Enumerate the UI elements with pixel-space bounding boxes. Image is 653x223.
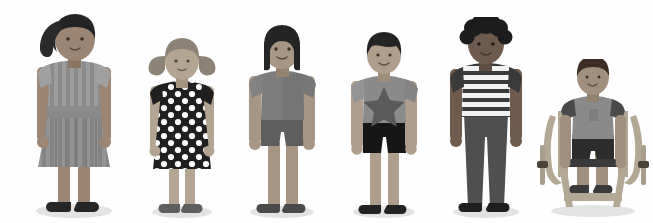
child-6-label: Boy seated in a wheelchair bbox=[534, 219, 535, 220]
shoe-right bbox=[74, 202, 99, 212]
leg-right bbox=[185, 164, 195, 209]
child-5-artwork bbox=[432, 17, 540, 219]
eye-left bbox=[274, 47, 277, 50]
frame-rail-right bbox=[613, 171, 626, 207]
figure-child-1: Girl with ponytail in striped dress bbox=[18, 9, 128, 219]
leg-left bbox=[268, 142, 280, 210]
caster-hub-left bbox=[537, 161, 548, 168]
shoe-left bbox=[257, 204, 281, 213]
hand-right bbox=[510, 135, 522, 147]
leg-right bbox=[388, 149, 399, 211]
eye-right bbox=[598, 76, 601, 79]
hand-right bbox=[616, 158, 627, 169]
tshirt-pocket bbox=[589, 109, 598, 121]
eye-right bbox=[388, 53, 391, 56]
shoe-left bbox=[159, 204, 181, 213]
eye-right bbox=[80, 37, 84, 41]
ground-shadow bbox=[551, 205, 635, 217]
caster-hub-right bbox=[638, 161, 649, 168]
shoe-left bbox=[46, 202, 71, 212]
child-5-label: Boy with curly hair in striped shirt and… bbox=[432, 219, 433, 220]
child-4-label: Boy with star t-shirt and dark shorts bbox=[334, 219, 335, 220]
illustration-title: Six diverse children standing in a row bbox=[0, 0, 1, 1]
figure-child-4: Boy with star t-shirt and dark shorts bbox=[334, 31, 434, 219]
shoe-left bbox=[359, 205, 382, 214]
child-3-label: Girl with straight dark hair in t-shirt … bbox=[232, 219, 233, 220]
hand-left bbox=[560, 158, 571, 169]
figure-child-5: Boy with curly hair in striped shirt and… bbox=[432, 17, 540, 219]
footplate bbox=[570, 193, 616, 198]
hand-right bbox=[99, 136, 111, 148]
shoe-right bbox=[282, 204, 306, 213]
eye-left bbox=[66, 37, 70, 41]
hand-left bbox=[351, 143, 363, 155]
eye-left bbox=[477, 42, 480, 45]
eye-left bbox=[174, 59, 177, 62]
hand-right bbox=[204, 146, 215, 157]
shoe-right bbox=[181, 204, 203, 213]
eye-left bbox=[586, 76, 589, 79]
hand-left bbox=[249, 138, 261, 150]
hand-left bbox=[450, 135, 462, 147]
pigtail-right bbox=[199, 56, 215, 75]
belt bbox=[47, 105, 101, 118]
figure-child-6: Boy seated in a wheelchair bbox=[534, 59, 652, 219]
striped-shirt bbox=[462, 63, 510, 117]
eye-left bbox=[376, 53, 379, 56]
leg-right bbox=[286, 142, 298, 210]
arm-left bbox=[560, 115, 571, 163]
leg-left bbox=[370, 149, 381, 211]
eye-right bbox=[186, 59, 189, 62]
shoe-left bbox=[459, 203, 483, 212]
shoe-right bbox=[593, 185, 613, 194]
child-6-artwork bbox=[534, 59, 652, 219]
seat bbox=[564, 159, 622, 167]
tshirt-shade bbox=[283, 74, 304, 120]
illustration-canvas: Six diverse children standing in a row bbox=[0, 0, 653, 223]
shoe-left bbox=[570, 185, 590, 194]
child-4-artwork bbox=[334, 31, 434, 219]
shoe-right bbox=[384, 205, 407, 214]
eye-right bbox=[287, 47, 290, 50]
hand-right bbox=[405, 143, 417, 155]
arm-right bbox=[615, 115, 626, 163]
trousers bbox=[464, 113, 508, 207]
child-3-artwork bbox=[232, 24, 332, 219]
shoe-right bbox=[486, 203, 510, 212]
child-2-artwork bbox=[132, 34, 232, 219]
hand-right bbox=[303, 138, 315, 150]
shorts bbox=[363, 119, 406, 153]
figure-child-2: Girl with pigtails in polka dot dress bbox=[132, 34, 232, 219]
child-1-artwork bbox=[18, 9, 128, 219]
hand-left bbox=[37, 136, 49, 148]
eye-right bbox=[491, 42, 494, 45]
leg-left bbox=[169, 164, 179, 209]
figure-child-3: Girl with straight dark hair in t-shirt … bbox=[232, 24, 332, 219]
shorts bbox=[261, 116, 304, 146]
child-1-label: Girl with ponytail in striped dress bbox=[18, 219, 19, 220]
pigtail-left bbox=[149, 56, 165, 75]
hand-left bbox=[150, 146, 161, 157]
child-2-label: Girl with pigtails in polka dot dress bbox=[132, 219, 133, 220]
